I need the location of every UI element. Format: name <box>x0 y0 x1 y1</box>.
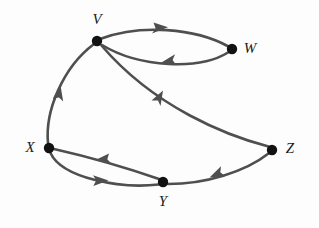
edge-v-to-w <box>102 23 229 47</box>
edge-z-to-v-path <box>102 46 269 147</box>
vertex-dot-v[interactable] <box>92 36 102 46</box>
edge-x-to-v <box>48 44 94 143</box>
vertex-label-y: Y <box>159 194 167 209</box>
edge-z-to-y-arrowhead <box>210 166 226 177</box>
edge-z-to-y-path <box>168 154 269 185</box>
vertex-label-x: X <box>25 140 34 155</box>
edge-v-to-w-path <box>102 30 229 47</box>
edge-y-to-x <box>54 149 159 179</box>
edge-v-to-w-arrowhead <box>152 23 168 34</box>
directed-graph-figure: V W X Y Z <box>0 0 319 228</box>
vertex-label-z: Z <box>286 141 294 156</box>
vertex-dot-z[interactable] <box>267 145 277 155</box>
vertex-dot-y[interactable] <box>158 177 168 187</box>
edge-z-to-y <box>168 154 269 185</box>
vertex-label-w: W <box>244 41 257 56</box>
edge-y-to-x-path <box>54 149 159 179</box>
vertex-label-v: V <box>92 12 101 27</box>
vertex-dot-w[interactable] <box>227 44 237 54</box>
edge-z-to-v <box>102 46 269 147</box>
edge-x-to-v-path <box>48 44 94 143</box>
vertex-dot-x[interactable] <box>44 143 54 153</box>
edge-w-to-v <box>102 45 228 65</box>
